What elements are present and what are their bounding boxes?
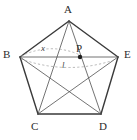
arc-l [21,59,117,68]
diagonal-CE [38,57,118,114]
vertex-label-E: E [124,49,131,60]
pentagon-diagram [0,0,137,140]
segment-label-x: x [41,44,45,53]
vertex-label-A: A [64,4,72,15]
vertex-label-C: C [31,121,38,132]
point-label-P: P [76,43,82,54]
point-P-marker [78,55,82,59]
vertex-label-D: D [99,121,107,132]
edge-BC [20,57,38,114]
edge-DE [101,57,118,114]
vertex-label-B: B [3,49,10,60]
measurement-arcs [21,49,117,68]
diagonal-BD [20,57,101,114]
segment-label-l: l [62,61,65,70]
geometry-figure: A B C D E P x l [0,0,137,140]
